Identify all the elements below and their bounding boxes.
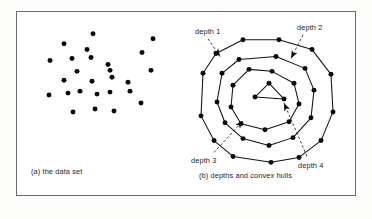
data-point <box>62 41 67 46</box>
hull-vertex-depth-1 <box>231 154 236 159</box>
hull-vertex-depth-1 <box>241 37 246 42</box>
hull-vertex-depth-3 <box>270 69 275 74</box>
data-point <box>70 56 75 61</box>
data-point <box>47 93 52 98</box>
panel-depths-convex-hulls: depth 1 depth 2 depth 3 depth 4 (b) dept… <box>181 12 357 195</box>
hull-vertex-depth-2 <box>215 100 220 105</box>
hull-vertex-depth-1 <box>329 72 334 77</box>
hull-vertex-depth-4 <box>253 95 258 100</box>
data-point <box>95 92 100 97</box>
leader-depth-2-arrowhead <box>288 50 297 60</box>
hull-vertex-depth-1 <box>331 109 336 114</box>
data-point <box>108 68 113 73</box>
hull-vertex-depth-2 <box>267 143 272 148</box>
data-point <box>149 68 154 73</box>
data-point <box>128 89 133 94</box>
hull-vertex-depth-1 <box>201 71 206 76</box>
hull-vertex-depth-4 <box>267 81 272 86</box>
data-point <box>112 108 117 113</box>
hull-vertex-depth-2 <box>312 88 317 93</box>
data-point <box>85 47 90 52</box>
hull-vertex-depth-2 <box>274 54 279 59</box>
hull-vertex-depth-1 <box>319 138 324 143</box>
data-point <box>93 106 98 111</box>
hull-vertex-depth-2 <box>291 135 296 140</box>
hull-vertex-depth-2 <box>309 115 314 120</box>
data-point <box>106 62 111 67</box>
hull-vertex-depth-1 <box>277 37 282 42</box>
data-point <box>62 78 67 83</box>
hull-vertex-depth-2 <box>303 66 308 71</box>
hull-vertex-depth-3 <box>287 119 292 124</box>
data-point <box>71 109 76 114</box>
caption-panel-b: (b) depths and convex hulls <box>199 172 292 179</box>
hull-vertex-depth-3 <box>231 83 236 88</box>
data-point <box>126 80 131 85</box>
hull-vertex-depth-1 <box>269 160 274 165</box>
data-point <box>139 101 144 106</box>
hull-vertex-depth-4 <box>282 97 287 102</box>
data-point <box>89 55 94 60</box>
data-point <box>90 79 95 84</box>
hull-vertex-depth-3 <box>292 81 297 86</box>
data-point <box>140 50 145 55</box>
data-point <box>110 75 115 80</box>
hull-vertex-depth-2 <box>220 71 225 76</box>
data-point <box>66 91 71 96</box>
hull-vertex-depth-1 <box>212 138 217 143</box>
hull-vertex-depth-1 <box>199 113 204 118</box>
panel-data-set: (a) the data set <box>17 12 181 195</box>
depth-1-label: depth 1 <box>195 28 220 35</box>
data-point <box>108 90 113 95</box>
depth-3-label: depth 3 <box>191 157 216 164</box>
hull-vertex-depth-3 <box>247 67 252 72</box>
hull-vertex-depth-2 <box>237 57 242 62</box>
caption-panel-a: (a) the data set <box>31 168 82 175</box>
figure-frame: (a) the data set depth 1 depth 2 depth 3… <box>16 11 356 196</box>
depth-2-label: depth 2 <box>297 24 322 31</box>
hull-vertex-depth-3 <box>229 104 234 109</box>
depth-4-label: depth 4 <box>298 162 323 169</box>
figure-root: (a) the data set depth 1 depth 2 depth 3… <box>0 0 372 219</box>
convex-hull-diagram <box>181 12 357 195</box>
data-point <box>151 36 156 41</box>
data-point <box>78 89 83 94</box>
hull-vertex-depth-2 <box>223 120 228 125</box>
hull-vertex-depth-2 <box>241 136 246 141</box>
hull-vertex-depth-3 <box>263 127 268 132</box>
data-point <box>91 31 96 36</box>
data-point <box>75 69 80 74</box>
data-point <box>48 58 53 63</box>
hull-vertex-depth-3 <box>297 102 302 107</box>
leader-depth-4-arrowhead <box>281 102 290 112</box>
hull-vertex-depth-1 <box>310 47 315 52</box>
hull-vertex-depth-1 <box>297 155 302 160</box>
